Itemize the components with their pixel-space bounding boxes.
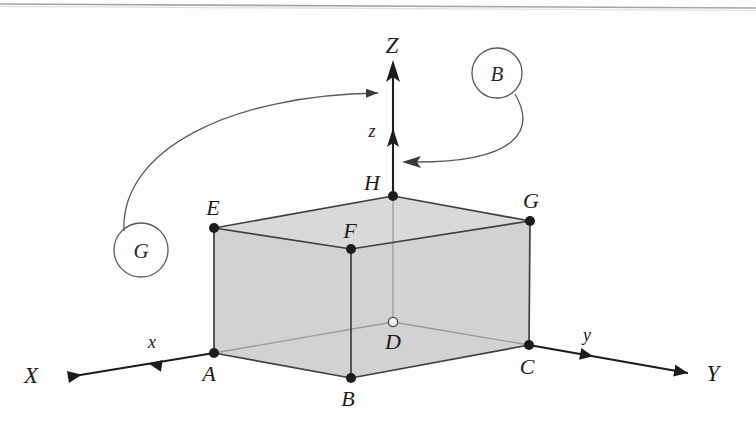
y-axis-label: Y [707,361,722,386]
x-axis-minor-label: x [147,332,156,352]
vertex-marker-D [388,317,397,326]
edge-C-G [529,221,530,345]
z-axis-label: Z [386,33,399,58]
vertex-label-C: C [520,354,535,379]
vertex-marker-G [525,216,535,226]
vertex-marker-B [346,373,356,383]
x-axis-minor-arrow [148,358,163,372]
x-axis-line [68,353,214,377]
vertex-marker-H [388,191,398,201]
left-face [214,228,351,378]
vertex-label-D: D [384,329,401,354]
vertex-label-A: A [200,361,216,386]
vertex-label-F: F [342,218,357,243]
z-axis-minor-label: z [367,121,375,141]
x-axis-label: X [23,363,39,388]
vertex-label-H: H [363,170,381,195]
y-axis-minor-label: y [581,325,591,345]
y-axis-line [529,345,688,373]
callout-b-leader-path [416,94,523,162]
figure-canvas: A B C D E F G H X x Y y Z z G B [0,0,756,431]
geometry-diagram: A B C D E F G H X x Y y Z z G B [0,0,756,431]
vertex-label-B: B [341,386,354,411]
vertex-label-G: G [523,188,539,213]
vertex-marker-C [524,340,534,350]
callout-g-label: G [133,239,148,263]
vertex-label-E: E [205,195,220,220]
vertex-marker-E [209,223,219,233]
vertex-marker-F [346,244,356,254]
callout-b-label: B [491,62,504,86]
vertex-marker-A [209,348,219,358]
